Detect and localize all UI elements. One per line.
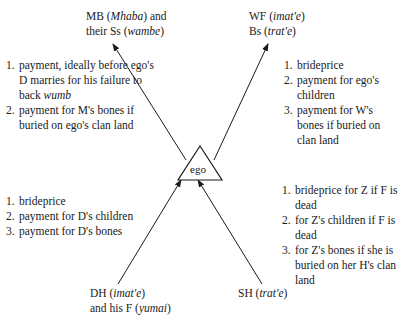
list-item: 1.payment, ideally before ego's D marrie… bbox=[6, 58, 156, 103]
node-mb-text: MB ( bbox=[86, 10, 111, 22]
list-item-number: 2. bbox=[282, 213, 291, 228]
list-bottom-right: 1.brideprice for Z if F is dead 2.for Z'… bbox=[282, 183, 400, 288]
node-sh: SH (trat'e) bbox=[238, 286, 287, 301]
list-item-number: 2. bbox=[6, 209, 15, 224]
list-item-number: 2. bbox=[6, 103, 15, 118]
list-item-text: payment for D's children bbox=[19, 210, 133, 222]
list-item-text: brideprice for Z if F is dead bbox=[295, 184, 398, 211]
node-dh: DH (imat'e) and his F (yumai) bbox=[90, 286, 171, 316]
node-sh-text-post: ) bbox=[284, 287, 288, 299]
list-item-number: 3. bbox=[6, 224, 15, 239]
list-item: 1.brideprice for Z if F is dead bbox=[282, 183, 400, 213]
node-f-text-post: ) bbox=[167, 302, 171, 314]
list-bottom-left: 1.brideprice 2.payment for D's children … bbox=[6, 194, 166, 239]
node-bs-text: Bs ( bbox=[249, 25, 268, 37]
list-item-text: brideprice bbox=[297, 59, 344, 71]
arrow-from-sh bbox=[198, 180, 262, 284]
list-item-text: for Z's children if F is dead bbox=[295, 214, 395, 241]
list-item-term: wumb bbox=[44, 89, 71, 101]
list-top-left: 1.payment, ideally before ego's D marrie… bbox=[6, 58, 156, 133]
node-sh-text: SH ( bbox=[238, 287, 259, 299]
node-wf-term: imat'e bbox=[273, 10, 301, 22]
list-item-text: payment for W's bones if buried on clan … bbox=[297, 104, 380, 146]
list-item-text: brideprice bbox=[19, 195, 66, 207]
list-item: 1.brideprice bbox=[284, 58, 400, 73]
list-item: 2.payment for M's bones if buried on ego… bbox=[6, 103, 156, 133]
list-item-text: for Z's bones if she is buried on her H'… bbox=[295, 244, 396, 286]
list-item-text: payment, ideally before ego's D marries … bbox=[19, 59, 154, 101]
node-mb-term: Mhaba bbox=[111, 10, 144, 22]
list-item-number: 1. bbox=[6, 194, 15, 209]
list-item-number: 3. bbox=[284, 103, 293, 118]
arrow-to-wf bbox=[214, 44, 268, 160]
list-item-number: 1. bbox=[284, 58, 293, 73]
list-item: 2.payment for ego's children bbox=[284, 73, 400, 103]
node-f-term: yumai bbox=[139, 302, 167, 314]
node-dh-text: DH ( bbox=[90, 287, 113, 299]
node-wf-text-post: ) bbox=[301, 10, 305, 22]
list-item: 3.payment for D's bones bbox=[6, 224, 166, 239]
list-item-number: 1. bbox=[6, 58, 15, 73]
node-bs-text-post: ) bbox=[292, 25, 296, 37]
node-wf: WF (imat'e) Bs (trat'e) bbox=[249, 9, 305, 39]
node-mb: MB (Mhaba) and their Ss (wambe) bbox=[86, 9, 167, 39]
node-ss-term: wambe bbox=[128, 25, 161, 37]
list-item-text: payment for D's bones bbox=[19, 225, 122, 237]
node-dh-term: imat'e bbox=[113, 287, 141, 299]
node-bs-term: trat'e bbox=[268, 25, 292, 37]
list-item-number: 1. bbox=[282, 183, 291, 198]
list-top-right: 1.brideprice 2.payment for ego's childre… bbox=[284, 58, 400, 148]
list-item: 3.payment for W's bones if buried on cla… bbox=[284, 103, 400, 148]
node-f-text: and his F ( bbox=[90, 302, 139, 314]
list-item-number: 3. bbox=[282, 243, 291, 258]
node-ss-text: their Ss ( bbox=[86, 25, 128, 37]
list-item-number: 2. bbox=[284, 73, 293, 88]
list-item-text: payment for ego's children bbox=[297, 74, 379, 101]
node-sh-term: trat'e bbox=[259, 287, 283, 299]
list-item: 2.for Z's children if F is dead bbox=[282, 213, 400, 243]
list-item: 3.for Z's bones if she is buried on her … bbox=[282, 243, 400, 288]
list-item-text: payment for M's bones if buried on ego's… bbox=[19, 104, 134, 131]
list-item: 2.payment for D's children bbox=[6, 209, 166, 224]
ego-label: ego bbox=[190, 163, 206, 175]
node-mb-text-post: ) and bbox=[143, 10, 166, 22]
node-wf-text: WF ( bbox=[249, 10, 273, 22]
node-dh-text-post: ) bbox=[141, 287, 145, 299]
node-ss-text-post: ) bbox=[160, 25, 164, 37]
list-item: 1.brideprice bbox=[6, 194, 166, 209]
